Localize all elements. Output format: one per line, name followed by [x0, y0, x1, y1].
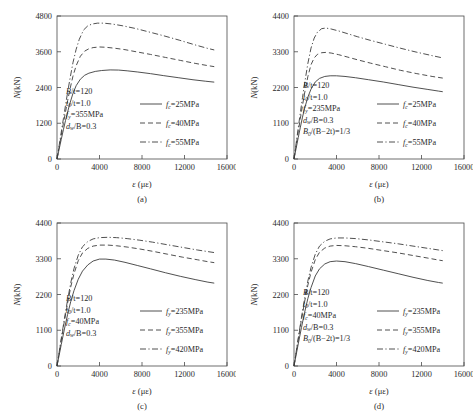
legend-label-1: fy=355MPa	[403, 326, 440, 336]
chart-panel-d: 040008000120001600001100220033004400N(kN…	[237, 207, 473, 414]
figure-four-panel-chart: 040008000120001600001200240036004800N(kN…	[0, 0, 473, 414]
x-tick-label: 8000	[134, 370, 151, 379]
x-tick-label: 4000	[328, 370, 345, 379]
y-tick-label: 4400	[272, 12, 289, 21]
y-tick-label: 3600	[35, 48, 52, 57]
y-tick-label: 3300	[272, 48, 289, 57]
parameter-annotation: fc=40MPa	[66, 317, 99, 327]
x-tick-label: 0	[55, 370, 59, 379]
parameter-annotation: B0/(B−2t)=1/3	[303, 334, 350, 344]
y-tick-label: 1100	[36, 326, 52, 335]
legend-label-2: fy=420MPa	[403, 345, 440, 355]
x-axis-label: ε (με)	[369, 386, 389, 396]
x-tick-label: 0	[55, 163, 59, 172]
x-axis-label: ε (με)	[369, 179, 389, 189]
parameter-annotation: t0/t=1.0	[66, 99, 90, 109]
y-tick-label: 0	[48, 362, 52, 371]
parameter-annotation: fc=40MPa	[303, 311, 336, 321]
parameter-annotation: B0/(B−2t)=1/3	[303, 127, 350, 137]
y-tick-label: 2200	[272, 84, 289, 93]
parameter-annotation: t0/t=1.0	[303, 300, 327, 310]
panel-caption: (a)	[137, 194, 147, 204]
panel-caption: (c)	[137, 401, 147, 411]
y-tick-label: 1100	[273, 119, 289, 128]
y-tick-label: 4400	[272, 219, 289, 228]
y-tick-label: 0	[48, 155, 52, 164]
legend-label-2: fc=55MPa	[403, 138, 436, 148]
y-tick-label: 2200	[272, 291, 289, 300]
parameter-annotation: dw/B=0.3	[66, 122, 96, 132]
legend-label-0: fy=235MPa	[166, 307, 203, 317]
y-tick-label: 4800	[35, 12, 52, 21]
y-axis-label: N(kN)	[12, 283, 22, 306]
y-tick-label: 1100	[273, 326, 289, 335]
legend-label-2: fy=420MPa	[166, 345, 203, 355]
legend-label-0: fc=25MPa	[403, 100, 436, 110]
parameter-annotation: dw/B=0.3	[303, 116, 333, 126]
x-tick-label: 0	[292, 163, 296, 172]
x-tick-label: 8000	[371, 163, 388, 172]
x-axis-label: ε (με)	[132, 386, 152, 396]
x-tick-label: 8000	[371, 370, 388, 379]
parameter-annotation: dw/B=0.3	[303, 323, 333, 333]
x-tick-label: 12000	[174, 163, 195, 172]
parameter-annotation: fy=235MPa	[303, 104, 340, 114]
x-tick-label: 0	[292, 370, 296, 379]
parameter-annotation: fy=355MPa	[66, 110, 103, 120]
legend-label-1: fc=40MPa	[166, 119, 199, 129]
x-tick-label: 8000	[134, 163, 151, 172]
parameter-annotation: B/t=120	[303, 288, 329, 297]
parameter-annotation: B/t=120	[303, 81, 329, 90]
y-axis-label: N(kN)	[249, 283, 259, 306]
y-tick-label: 3300	[35, 255, 52, 264]
parameter-annotation: dw/B=0.3	[66, 329, 96, 339]
y-tick-label: 2400	[35, 84, 52, 93]
y-axis-label: N(kN)	[249, 76, 259, 99]
chart-panel-c: 040008000120001600001100220033004400N(kN…	[0, 207, 236, 414]
parameter-annotation: B/t=120	[66, 87, 92, 96]
x-axis-label: ε (με)	[132, 179, 152, 189]
legend-label-0: fy=235MPa	[403, 307, 440, 317]
parameter-annotation: t0/t=1.0	[303, 93, 327, 103]
x-tick-label: 16000	[454, 163, 473, 172]
x-tick-label: 12000	[411, 370, 432, 379]
y-tick-label: 4400	[35, 219, 52, 228]
x-tick-label: 16000	[454, 370, 473, 379]
x-tick-label: 16000	[217, 370, 236, 379]
chart-panel-b: 040008000120001600001100220033004400N(kN…	[237, 0, 473, 207]
y-tick-label: 1200	[35, 119, 52, 128]
x-tick-label: 4000	[91, 163, 108, 172]
legend-label-2: fc=55MPa	[166, 138, 199, 148]
y-tick-label: 2200	[35, 291, 52, 300]
y-tick-label: 0	[285, 155, 289, 164]
chart-panel-a: 040008000120001600001200240036004800N(kN…	[0, 0, 236, 207]
x-tick-label: 12000	[411, 163, 432, 172]
parameter-annotation: B/t=120	[66, 294, 92, 303]
x-tick-label: 12000	[174, 370, 195, 379]
x-tick-label: 4000	[91, 370, 108, 379]
x-tick-label: 4000	[328, 163, 345, 172]
y-tick-label: 0	[285, 362, 289, 371]
legend-label-1: fc=40MPa	[403, 119, 436, 129]
panel-caption: (d)	[374, 401, 384, 411]
legend-label-0: fc=25MPa	[166, 100, 199, 110]
legend-label-1: fy=355MPa	[166, 326, 203, 336]
x-tick-label: 16000	[217, 163, 236, 172]
panel-caption: (b)	[374, 194, 384, 204]
y-tick-label: 3300	[272, 255, 289, 264]
y-axis-label: N(kN)	[12, 76, 22, 99]
